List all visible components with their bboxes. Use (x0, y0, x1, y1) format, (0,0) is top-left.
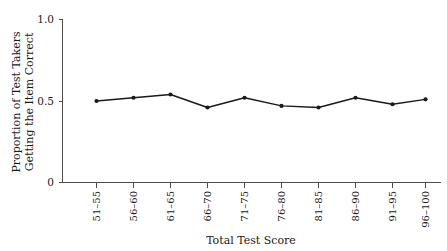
data-point-91–95 (390, 102, 394, 106)
data-point-56–60 (131, 96, 135, 100)
x-tick-label-3: 61–65 (165, 191, 176, 221)
x-tick-label-10: 96–100 (420, 191, 431, 228)
x-axis-ticks (97, 183, 426, 188)
series-line (97, 94, 426, 107)
y-tick-label-3: 0 (47, 176, 54, 188)
y-tick-label-2: 0.5 (37, 95, 54, 107)
data-point-86–90 (353, 96, 357, 100)
x-tick-label-7: 81–85 (313, 191, 324, 221)
data-point-66–70 (205, 105, 209, 109)
x-axis-tick-labels: 51–55 56–60 61–65 66–70 71–75 76–80 81–8… (91, 191, 431, 228)
y-axis-title-line2: Getting the Item Correct (23, 32, 36, 171)
data-point-61–65 (168, 92, 172, 96)
x-tick-label-8: 86–90 (350, 191, 361, 221)
x-tick-label-4: 66–70 (202, 191, 213, 221)
line-chart-svg: 1.0 0.5 0 Proportion of Test Takers Gett… (0, 0, 447, 251)
y-axis-title-line1: Proportion of Test Takers (10, 31, 23, 173)
x-tick-label-5: 71–75 (239, 191, 250, 221)
x-tick-label-9: 91–95 (387, 191, 398, 221)
x-tick-label-1: 51–55 (91, 191, 102, 221)
y-tick-label-1: 1.0 (37, 13, 54, 25)
x-tick-label-6: 76–80 (276, 191, 287, 221)
data-point-51–55 (94, 99, 98, 103)
data-point-96–100 (423, 97, 427, 101)
x-axis-title: Total Test Score (206, 234, 296, 247)
chart-figure: 1.0 0.5 0 Proportion of Test Takers Gett… (0, 0, 447, 251)
data-point-76–80 (279, 104, 283, 108)
data-point-81–85 (316, 105, 320, 109)
x-tick-label-2: 56–60 (128, 191, 139, 221)
y-axis-ticks (59, 20, 63, 183)
data-point-71–75 (242, 96, 246, 100)
